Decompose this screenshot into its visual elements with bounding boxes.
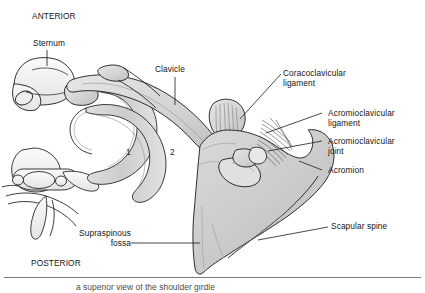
rib-number-2: 2 — [170, 147, 175, 157]
label-acromion: Acromion — [328, 165, 364, 175]
label-acromioclavicular-joint-line1: Acromioclavicular — [328, 136, 395, 146]
acromioclavicular-joint-drawing — [249, 147, 267, 164]
rib-number-1: 1 — [126, 147, 131, 157]
leader-coracoclavicular — [240, 74, 281, 119]
orientation-posterior: POSTERIOR — [31, 258, 81, 268]
label-acromioclavicular-ligament-line1: Acromioclavicular — [328, 108, 395, 118]
vertebra-drawing — [2, 148, 99, 239]
label-supraspinous-fossa-line2: fossa — [41, 238, 131, 248]
label-coracoclavicular-ligament-line2: ligament — [283, 78, 315, 88]
orientation-anterior: ANTERIOR — [32, 11, 76, 21]
caption-divider — [4, 277, 421, 278]
figure-caption: a superior view of the shoulder girdle — [76, 284, 396, 293]
caption-clip: a superior view of the shoulder girdle — [0, 284, 425, 293]
label-supraspinous-fossa-line1: Supraspinous — [41, 228, 131, 238]
label-clavicle: Clavicle — [155, 64, 185, 74]
label-acromioclavicular-joint-line2: joint — [328, 146, 344, 156]
label-scapular-spine: Scapular spine — [331, 221, 387, 231]
label-sternum: Sternum — [33, 38, 65, 48]
label-coracoclavicular-ligament-line1: Coracoclavicular — [283, 68, 346, 78]
label-acromioclavicular-ligament-line2: ligament — [328, 118, 360, 128]
